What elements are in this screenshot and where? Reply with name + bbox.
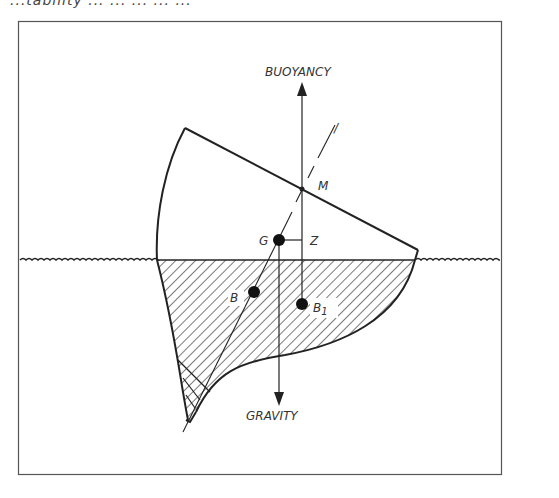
label-buoyancy: BUOYANCY (265, 65, 332, 79)
label-z: Z (309, 234, 319, 248)
label-gravity: GRAVITY (246, 409, 299, 423)
label-m: M (318, 179, 329, 193)
label-b: B (230, 291, 238, 305)
point-g (273, 234, 285, 246)
centerline-mark: / (333, 121, 340, 135)
point-b (248, 286, 260, 298)
figure-frame (19, 22, 502, 475)
point-m (300, 187, 305, 192)
stability-diagram: BUOYANCY GRAVITY M G Z B B1 / (0, 0, 559, 498)
buoyancy-arrowhead-icon (297, 82, 307, 96)
label-g: G (259, 234, 268, 248)
gravity-arrowhead-icon (274, 392, 284, 406)
submerged-volume (150, 255, 430, 425)
waterline (20, 259, 500, 261)
point-b1 (296, 298, 308, 310)
